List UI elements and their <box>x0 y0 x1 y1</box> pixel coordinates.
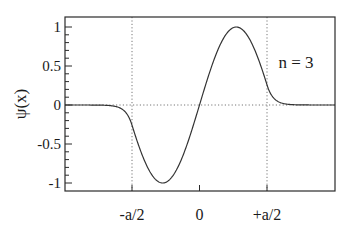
y-axis-label: ψ(x) <box>11 89 30 119</box>
x-axis-tick-labels: -a/2 0 +a/2 <box>120 206 282 223</box>
wavefunction-chart: 1 0.5 0 -0.5 -1 -a/2 0 +a/2 ψ(x) n = 3 <box>0 0 352 240</box>
y-tick-label-1: 1 <box>54 19 62 35</box>
state-annotation: n = 3 <box>278 53 313 72</box>
y-tick-label-0.5: 0.5 <box>42 58 61 74</box>
x-tick-label-zero: 0 <box>196 206 204 223</box>
y-tick-label-neg1: -1 <box>49 175 62 191</box>
x-tick-label-neg-half-a: -a/2 <box>120 206 145 223</box>
y-tick-label-neg0.5: -0.5 <box>37 136 61 152</box>
x-tick-label-pos-half-a: +a/2 <box>253 206 282 223</box>
y-tick-label-0: 0 <box>54 97 62 113</box>
chart-background <box>0 0 352 240</box>
